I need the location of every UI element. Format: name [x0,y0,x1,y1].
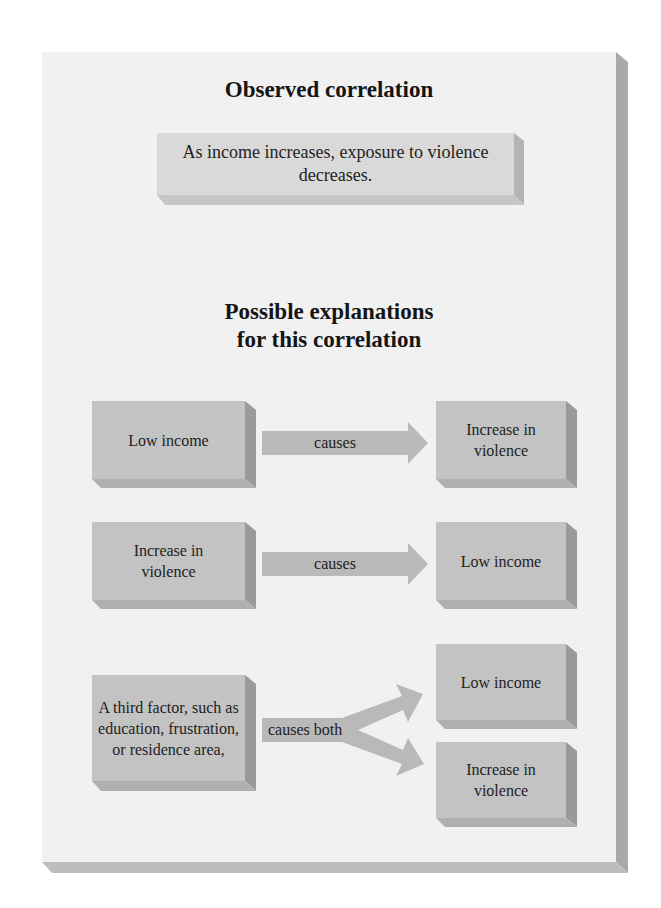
row3-effect1: Low income [436,644,566,720]
box-bevel-bottom [436,479,577,488]
row2-effect: Low income [436,522,566,600]
box-bevel-side [245,401,256,488]
box-bevel-side [245,675,256,791]
row3-effect2: Increase in violence [436,742,566,818]
row3-causes-both-arrow: causes both [262,680,432,790]
box-bevel-side [566,644,577,729]
row1-effect: Increase in violence [436,401,566,479]
row2-arrow-label: causes [262,552,408,576]
observed-heading: Observed correlation [42,76,616,103]
row3-cause: A third factor, such as education, frust… [92,675,245,781]
explanations-heading-line1: Possible explanations [42,298,616,325]
box-bevel-bottom [92,600,256,609]
box-bevel-bottom [92,781,256,791]
box-bevel-bottom [92,479,256,488]
arrow-head-icon [408,422,428,464]
box-bevel-bottom [157,195,524,205]
box-bevel-bottom [436,818,577,827]
row1-cause: Low income [92,401,245,479]
box-bevel-side [566,742,577,827]
panel-bevel-bottom [42,862,628,873]
observed-statement: As income increases, exposure to violenc… [157,133,514,195]
row1-arrow-label: causes [262,431,408,455]
panel-bevel-side [616,52,628,873]
arrow-head-icon [408,543,428,585]
row3-arrow-label: causes both [268,718,342,742]
box-bevel-side [245,522,256,609]
box-bevel-side [566,401,577,488]
box-bevel-side [514,133,524,205]
box-bevel-bottom [436,720,577,729]
box-bevel-side [566,522,577,609]
explanations-heading-line2: for this correlation [42,326,616,353]
row2-cause: Increase in violence [92,522,245,600]
box-bevel-bottom [436,600,577,609]
